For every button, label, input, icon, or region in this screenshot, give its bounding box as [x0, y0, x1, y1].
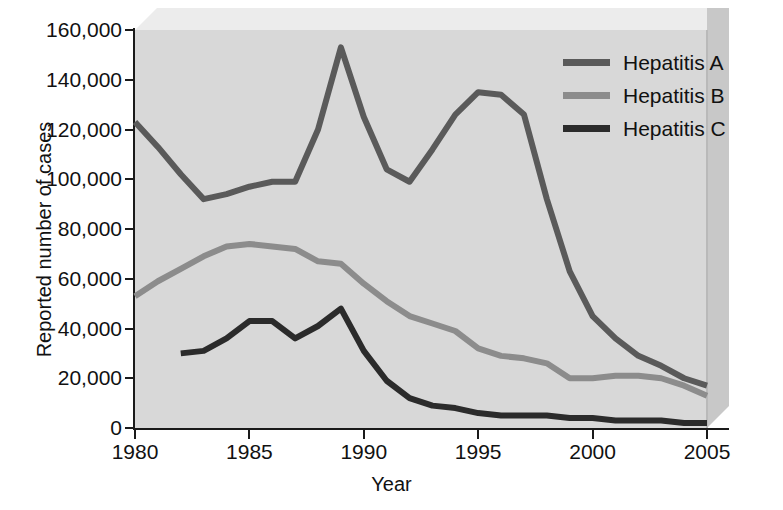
y-tick-label: 140,000: [46, 68, 122, 92]
legend-item[interactable]: Hepatitis C: [563, 112, 726, 145]
x-tick-mark: [706, 430, 708, 439]
x-tick-mark: [477, 430, 479, 439]
x-tick-label: 1995: [455, 440, 502, 464]
x-tick-label: 1990: [340, 440, 387, 464]
y-tick-label: 120,000: [46, 118, 122, 142]
legend-item[interactable]: Hepatitis B: [563, 79, 726, 112]
y-tick-label: 60,000: [58, 267, 122, 291]
x-tick-mark: [363, 430, 365, 439]
y-tick-mark: [125, 328, 134, 330]
x-tick-label: 2000: [569, 440, 616, 464]
y-axis-title: Reported number of cases: [33, 90, 56, 390]
y-tick-mark: [125, 427, 134, 429]
legend-item[interactable]: Hepatitis A: [563, 46, 726, 79]
y-tick-mark: [125, 29, 134, 31]
y-tick-label: 0: [110, 416, 122, 440]
x-axis-title: Year: [0, 473, 783, 496]
x-tick-mark: [592, 430, 594, 439]
x-tick-label: 2005: [684, 440, 731, 464]
y-tick-label: 100,000: [46, 167, 122, 191]
y-tick-mark: [125, 278, 134, 280]
legend-swatch: [563, 92, 610, 99]
y-tick-mark: [125, 178, 134, 180]
y-tick-mark: [125, 129, 134, 131]
legend-swatch: [563, 125, 610, 132]
y-tick-mark: [125, 377, 134, 379]
chart-figure: 020,00040,00060,00080,000100,000120,0001…: [0, 0, 783, 510]
x-tick-mark: [248, 430, 250, 439]
legend-label: Hepatitis A: [623, 51, 723, 75]
legend-label: Hepatitis C: [623, 117, 726, 141]
panel-top-face: [135, 8, 707, 30]
x-tick-label: 1985: [226, 440, 273, 464]
legend-swatch: [563, 59, 610, 66]
y-tick-mark: [125, 79, 134, 81]
y-tick-label: 40,000: [58, 317, 122, 341]
y-tick-label: 80,000: [58, 217, 122, 241]
y-tick-mark: [125, 228, 134, 230]
x-axis-line: [133, 428, 729, 430]
chart-legend: Hepatitis AHepatitis BHepatitis C: [563, 46, 726, 145]
y-tick-label: 160,000: [46, 18, 122, 42]
y-tick-label: 20,000: [58, 366, 122, 390]
x-tick-label: 1980: [112, 440, 159, 464]
x-tick-mark: [134, 430, 136, 439]
legend-label: Hepatitis B: [623, 84, 725, 108]
